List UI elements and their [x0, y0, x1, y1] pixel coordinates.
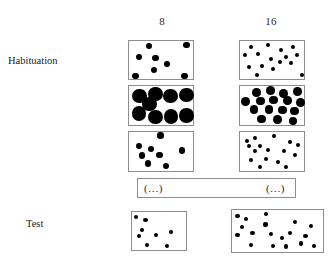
dot — [272, 134, 276, 138]
dot — [278, 106, 287, 115]
dot — [256, 97, 265, 106]
dot — [140, 228, 144, 232]
dot — [269, 232, 273, 236]
dot — [271, 244, 275, 248]
dot — [241, 97, 250, 106]
column-header-8: 8 — [131, 15, 193, 27]
dot — [163, 89, 177, 103]
dot — [284, 165, 288, 169]
dot — [235, 233, 239, 237]
dot — [181, 73, 187, 79]
dot — [299, 241, 303, 245]
dot — [260, 64, 264, 68]
dot — [255, 73, 259, 77]
dot — [288, 231, 292, 235]
dot — [132, 106, 146, 120]
dot — [151, 67, 157, 73]
dot — [288, 140, 292, 144]
dot — [271, 67, 275, 71]
dot — [169, 230, 173, 234]
dot — [146, 43, 152, 49]
dot — [148, 146, 154, 152]
dot — [312, 244, 316, 248]
dot — [136, 143, 142, 149]
dot — [265, 105, 274, 114]
dot — [273, 115, 282, 124]
row-label-test: Test — [26, 218, 43, 229]
dot — [250, 231, 254, 235]
dot — [264, 157, 268, 161]
dot — [296, 143, 300, 147]
dot — [266, 43, 270, 47]
dot — [134, 215, 138, 219]
stimulus-panel-test-8 — [131, 211, 187, 251]
dot — [257, 115, 266, 124]
dot — [291, 45, 295, 49]
dot — [293, 153, 297, 157]
dot — [136, 54, 142, 60]
stimulus-panel-hab-8-c — [128, 131, 194, 172]
dot — [279, 48, 283, 52]
dot — [283, 96, 292, 105]
dot — [143, 218, 147, 222]
dot — [249, 243, 253, 247]
dot — [293, 87, 302, 96]
dot — [253, 149, 257, 153]
dot — [266, 148, 270, 152]
dot — [163, 163, 169, 169]
dot — [284, 244, 288, 248]
dot — [284, 55, 288, 59]
dot — [179, 147, 185, 153]
dot — [247, 144, 251, 148]
dot — [295, 53, 299, 57]
dot — [263, 222, 267, 226]
dot — [139, 152, 145, 158]
dot — [252, 88, 261, 97]
dot — [154, 233, 158, 237]
dot — [269, 57, 273, 61]
dot — [289, 61, 293, 65]
column-header-16: 16 — [240, 15, 302, 27]
dot — [280, 236, 284, 240]
dot — [240, 225, 244, 229]
dot — [300, 73, 304, 77]
dot — [156, 152, 162, 158]
dot — [290, 107, 299, 116]
dot — [266, 86, 275, 95]
stimulus-figure: 8 16 Habituation Test (…) (…) — [0, 0, 332, 265]
dot — [258, 165, 262, 169]
dot — [247, 65, 251, 69]
dot — [293, 220, 297, 224]
dot — [152, 55, 158, 61]
dot — [145, 160, 151, 166]
dot — [296, 98, 305, 107]
dot — [276, 160, 280, 164]
dot — [289, 117, 298, 126]
dot — [282, 149, 286, 153]
dot — [132, 73, 138, 79]
dot — [309, 224, 313, 228]
dot — [243, 53, 247, 57]
dot — [165, 244, 169, 248]
row-label-habituation: Habituation — [8, 55, 58, 66]
dot — [253, 136, 257, 140]
dot — [183, 42, 189, 48]
stimulus-panel-hab-8-b — [128, 85, 194, 126]
dot — [258, 144, 262, 148]
stimulus-panel-hab-16-b — [239, 85, 305, 126]
continuation-label-left: (…) — [144, 183, 162, 194]
stimulus-panel-test-16 — [231, 209, 324, 253]
dot — [148, 110, 162, 124]
dot — [256, 52, 260, 56]
continuation-label-right: (…) — [266, 183, 284, 194]
dot — [179, 108, 193, 122]
dot — [264, 212, 268, 216]
stimulus-panel-hab-16-c — [239, 131, 305, 172]
dot — [157, 132, 163, 138]
dot — [250, 105, 259, 114]
dot — [164, 109, 178, 123]
dot — [244, 217, 248, 221]
dot — [164, 61, 170, 67]
dot — [235, 214, 239, 218]
dot — [269, 96, 278, 105]
